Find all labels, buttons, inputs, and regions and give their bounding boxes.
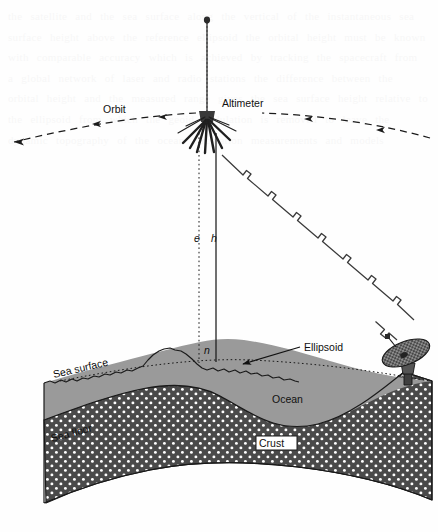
orbit-label: Orbit bbox=[103, 103, 126, 115]
symbol-n-label: n bbox=[204, 344, 210, 356]
symbol-e-label: e bbox=[194, 232, 200, 244]
crust-label: Crust bbox=[259, 437, 284, 449]
symbol-h-label: h bbox=[211, 232, 217, 244]
orbit-left-segment bbox=[14, 113, 196, 142]
satellite-top-marker-dot bbox=[204, 17, 210, 24]
orbit-right-segment bbox=[262, 113, 430, 138]
altimeter-label: Altimeter bbox=[222, 97, 264, 109]
orbit-arrow-3 bbox=[158, 114, 167, 120]
ellipsoid-label: Ellipsoid bbox=[304, 341, 343, 353]
radio-link-beam bbox=[222, 155, 414, 340]
altimeter-satellite: Altimeter bbox=[178, 17, 264, 153]
orbit-arrow-1 bbox=[376, 127, 385, 133]
altimetry-diagram: Altimeter Ellipsoid e h n bbox=[0, 0, 438, 532]
ocean-label: Ocean bbox=[272, 393, 303, 405]
orbit-arrow-5 bbox=[14, 139, 24, 146]
figure-canvas: the satellite and the sea surface along … bbox=[0, 0, 438, 532]
dish-feed-horn bbox=[385, 334, 390, 339]
crust-callout: Crust bbox=[256, 436, 297, 450]
orbit-track bbox=[14, 113, 430, 145]
radio-link-zigzag-upper bbox=[222, 155, 414, 320]
orbit-arrow-2 bbox=[304, 116, 313, 122]
